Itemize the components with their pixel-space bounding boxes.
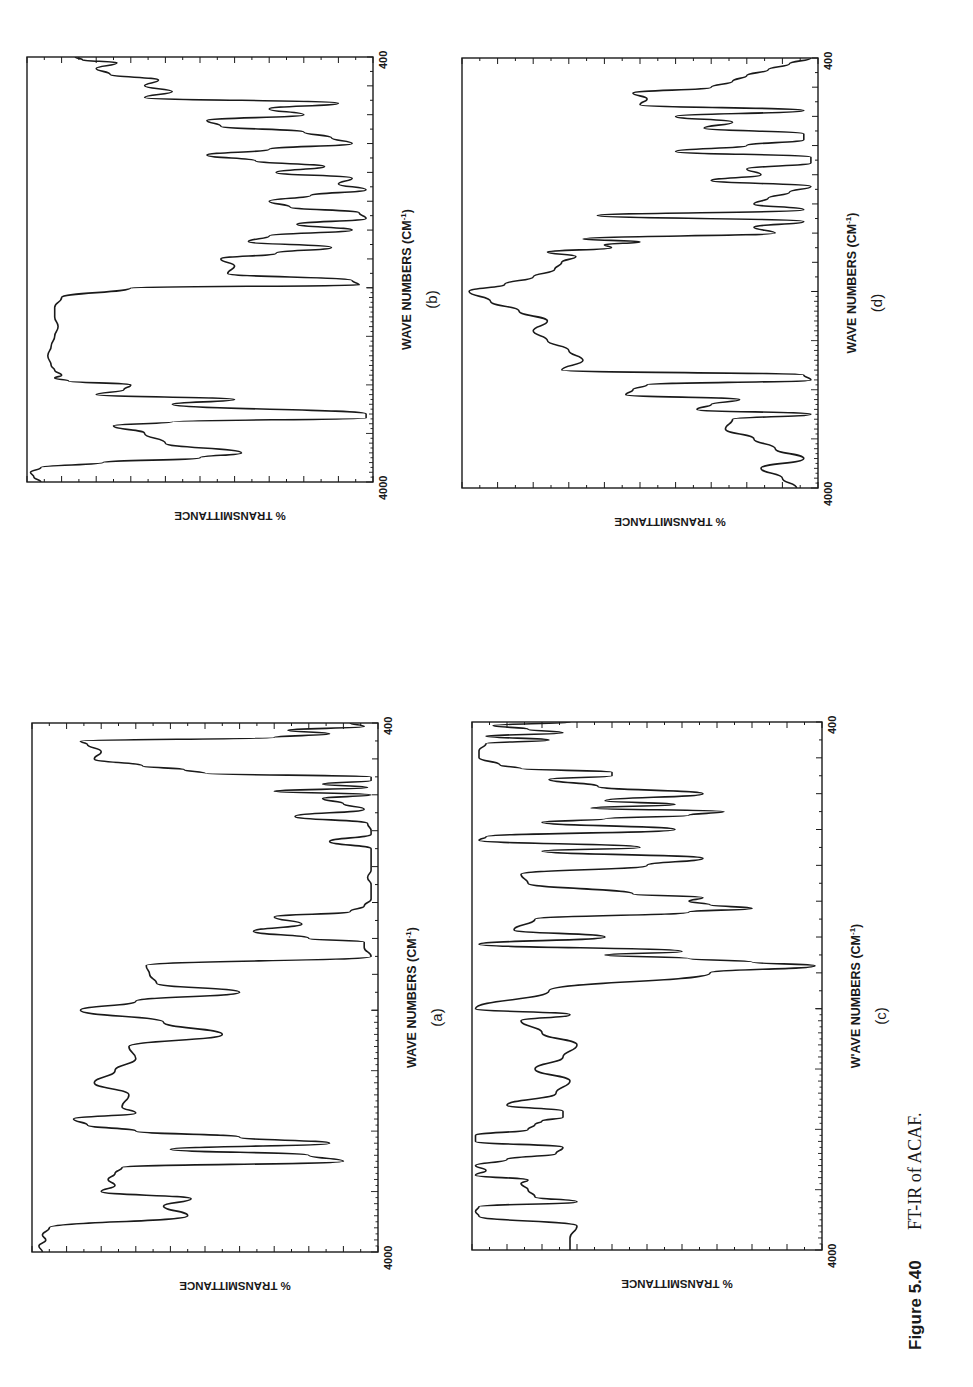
spectrum-panel-a: 4000400WAVE NUMBERS (CM-1)(a)% TRANSMITT…	[32, 717, 445, 1292]
x-tick-label-4000: 4000	[377, 476, 389, 500]
plot-frame	[462, 58, 818, 488]
spectrum-trace	[469, 58, 811, 488]
plot-frame	[27, 57, 373, 482]
x-tick-label-400: 400	[377, 51, 389, 69]
spectrum-panel-c: 4000400W'AVE NUMBERS (CM-1)(c)% TRANSMIT…	[472, 716, 889, 1290]
x-tick-label-400: 400	[382, 717, 394, 735]
spectrum-panels: 4000400WAVE NUMBERS (CM-1)(a)% TRANSMITT…	[27, 51, 889, 1292]
spectrum-panel-b: 4000400WAVE NUMBERS (CM-1)(b)% TRANSMITT…	[27, 51, 440, 522]
y-axis-label: % TRANSMITTANCE	[614, 516, 726, 528]
panel-label: (d)	[868, 294, 885, 312]
x-tick-label-400: 400	[822, 52, 834, 70]
x-axis-label: WAVE NUMBERS (CM-1)	[399, 209, 414, 350]
spectrum-trace	[476, 722, 816, 1250]
spectrum-trace	[31, 57, 367, 482]
x-tick-label-4000: 4000	[382, 1246, 394, 1270]
ftir-figure: 4000400WAVE NUMBERS (CM-1)(a)% TRANSMITT…	[0, 0, 973, 1387]
panel-label: (a)	[428, 1008, 445, 1026]
y-axis-label: % TRANSMITTANCE	[179, 1280, 291, 1292]
y-axis-label: % TRANSMITTANCE	[174, 510, 286, 522]
caption-text: FT-IR of ACAF.	[905, 1113, 925, 1230]
caption-label: Figure 5.40	[906, 1260, 925, 1350]
x-tick-label-400: 400	[826, 716, 838, 734]
figure-caption: Figure 5.40 FT-IR of ACAF.	[905, 1113, 925, 1350]
y-axis-label: % TRANSMITTANCE	[621, 1278, 733, 1290]
x-axis-label: WAVE NUMBERS (CM-1)	[404, 927, 419, 1068]
panel-label: (c)	[872, 1007, 889, 1025]
x-tick-label-4000: 4000	[826, 1244, 838, 1268]
x-axis-label: W'AVE NUMBERS (CM-1)	[848, 924, 863, 1069]
plot-frame	[472, 722, 822, 1250]
x-axis-label: WAVE NUMBERS (CM-1)	[844, 213, 859, 354]
x-tick-label-4000: 4000	[822, 482, 834, 506]
panel-label: (b)	[423, 290, 440, 308]
spectrum-panel-d: 4000400WAVE NUMBERS (CM-1)(d)% TRANSMITT…	[462, 52, 885, 528]
spectrum-trace	[39, 723, 371, 1252]
